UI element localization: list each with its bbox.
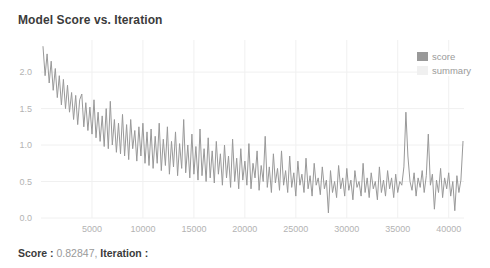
y-axis-tick-label: 1.0 <box>19 140 32 150</box>
legend-item-summary[interactable]: summary <box>417 65 471 76</box>
y-axis-tick-label: 0.5 <box>19 177 32 187</box>
score-series-swatch-icon <box>417 52 428 61</box>
status-bar: Score : 0.82847, Iteration : <box>18 247 151 259</box>
y-axis-tick-label: 2.0 <box>19 67 32 77</box>
x-axis-tick-label: 15000 <box>181 224 206 234</box>
legend-label-summary: summary <box>432 65 471 76</box>
x-axis-tick-label: 30000 <box>334 224 359 234</box>
summary-series-swatch-icon <box>417 66 428 75</box>
legend-item-score[interactable]: score <box>417 51 471 62</box>
chart-legend: score summary <box>417 51 471 76</box>
score-status-value: 0.82847, <box>57 247 101 259</box>
y-axis-tick-label: 0.0 <box>19 213 32 223</box>
score-line-series[interactable] <box>43 47 463 213</box>
iteration-status-label: Iteration : <box>100 247 151 259</box>
x-axis-tick-label: 5000 <box>82 224 102 234</box>
y-axis-tick-label: 1.5 <box>19 104 32 114</box>
score-status-label: Score : <box>18 247 57 259</box>
x-axis-tick-label: 25000 <box>283 224 308 234</box>
x-axis-tick-label: 35000 <box>385 224 410 234</box>
line-chart-plot-area[interactable]: 0.00.51.01.52.05000100001500020000250003… <box>0 0 490 245</box>
x-axis-tick-label: 40000 <box>436 224 461 234</box>
legend-label-score: score <box>432 51 455 62</box>
chart-panel: Model Score vs. Iteration 0.00.51.01.52.… <box>0 0 490 268</box>
x-axis-tick-label: 10000 <box>130 224 155 234</box>
x-axis-tick-label: 20000 <box>232 224 257 234</box>
